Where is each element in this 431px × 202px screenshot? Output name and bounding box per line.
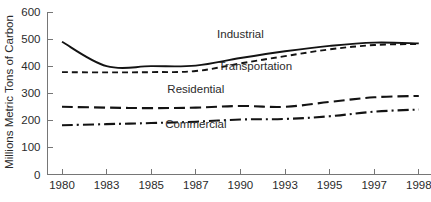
y-axis-title: Millions Metric Tons of Carbon	[3, 15, 15, 169]
x-axis-tick-label: 1990	[228, 179, 254, 191]
y-axis-tick-label: 400	[21, 60, 40, 72]
x-axis-tick-label: 1987	[183, 179, 209, 191]
y-axis-tick-label: 300	[21, 87, 40, 99]
x-axis-tick-label: 1993	[272, 179, 298, 191]
series-line-commercial	[62, 110, 419, 126]
y-axis-tick-label: 600	[21, 6, 40, 18]
y-axis-tick-label: 200	[21, 114, 40, 126]
series-label-industrial: Industrial	[217, 28, 264, 40]
series-line-residential	[62, 96, 419, 108]
chart-canvas: 0100200300400500600 19801983198519871990…	[0, 0, 431, 202]
y-axis: 0100200300400500600	[21, 6, 52, 181]
x-axis-tick-label: 1980	[49, 179, 75, 191]
series-label-commercial: Commercial	[165, 118, 226, 130]
y-axis-tick-label: 100	[21, 141, 40, 153]
series-label-transportation: Transportation	[218, 60, 292, 72]
x-axis-tick-label: 1998	[406, 179, 431, 191]
x-axis-tick-label: 1997	[361, 179, 387, 191]
x-axis-tick-label: 1995	[317, 179, 343, 191]
series-label-residential: Residential	[167, 83, 224, 95]
y-axis-tick-label: 0	[34, 169, 40, 181]
line-chart: 0100200300400500600 19801983198519871990…	[0, 0, 431, 202]
x-axis-tick-label: 1985	[138, 179, 164, 191]
x-axis-tick-label: 1983	[94, 179, 120, 191]
series-lines	[62, 42, 419, 125]
x-axis: 198019831985198719901993199519971998	[48, 169, 431, 191]
y-axis-tick-label: 500	[21, 33, 40, 45]
series-labels: IndustrialTransportationResidentialComme…	[165, 28, 292, 131]
